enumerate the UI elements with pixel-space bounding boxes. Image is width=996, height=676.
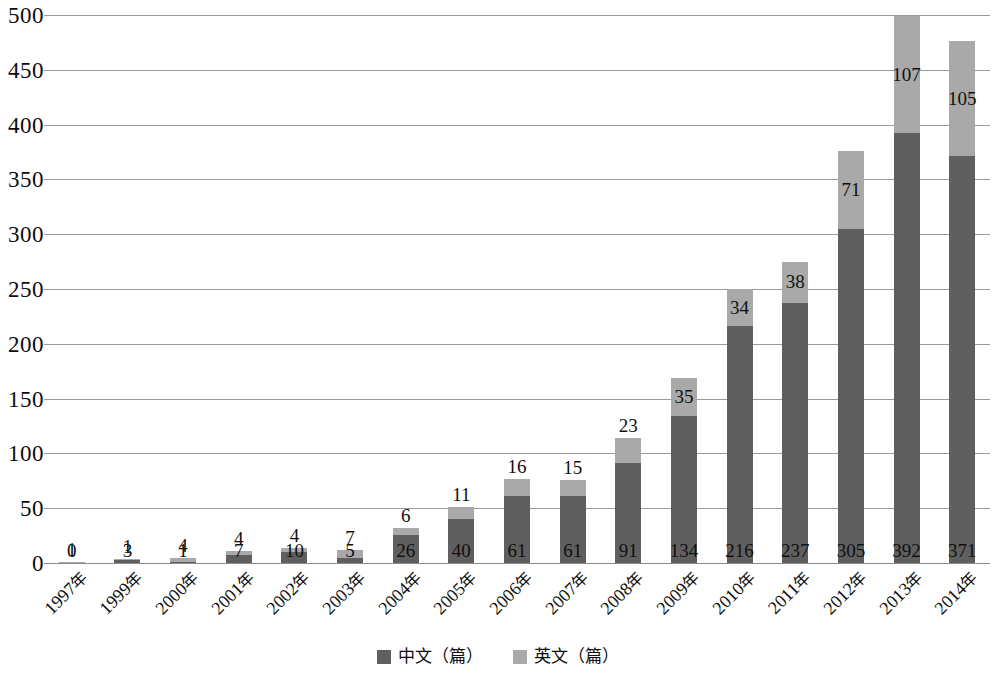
bar-group[interactable] bbox=[894, 16, 920, 563]
y-axis-tick-label: 250 bbox=[0, 278, 44, 301]
data-label-english: 15 bbox=[563, 458, 582, 477]
data-label-english: 11 bbox=[452, 485, 470, 504]
gridline-0 bbox=[44, 563, 990, 564]
data-label-chinese: 216 bbox=[725, 541, 754, 560]
data-label-chinese: 371 bbox=[948, 541, 977, 560]
y-axis-tick-label: 350 bbox=[0, 168, 44, 191]
legend-label: 中文（篇） bbox=[398, 648, 483, 665]
x-axis-tick-label: 2013年 bbox=[864, 568, 925, 629]
y-axis-tick-label: 300 bbox=[0, 223, 44, 246]
bar-group[interactable] bbox=[838, 151, 864, 563]
legend-swatch-icon bbox=[377, 650, 391, 664]
data-label-english: 6 bbox=[401, 506, 411, 525]
stacked-bar-chart: 0131147410457266401161166115912313435216… bbox=[0, 0, 996, 676]
y-axis-tick-label: 50 bbox=[0, 497, 44, 520]
data-label-english: 4 bbox=[234, 529, 244, 548]
data-label-english: 23 bbox=[619, 416, 638, 435]
y-axis-tick-label: 100 bbox=[0, 442, 44, 465]
data-label-english: 4 bbox=[290, 526, 300, 545]
data-label-chinese: 61 bbox=[508, 541, 527, 560]
x-axis-tick-label: 2014年 bbox=[920, 568, 981, 629]
x-axis-tick-label: 1997年 bbox=[30, 568, 91, 629]
data-label-english: 38 bbox=[786, 272, 805, 291]
x-axis-tick-label: 2007年 bbox=[531, 568, 592, 629]
data-label-english: 34 bbox=[730, 298, 749, 317]
data-label-chinese: 91 bbox=[619, 541, 638, 560]
bar-segment-chinese[interactable] bbox=[170, 562, 196, 563]
bar-segment-english[interactable] bbox=[560, 480, 586, 496]
x-axis-tick-label: 2001年 bbox=[197, 568, 258, 629]
data-label-chinese: 134 bbox=[670, 541, 699, 560]
data-label-english: 107 bbox=[892, 65, 921, 84]
x-axis-tick-label: 2011年 bbox=[753, 568, 814, 629]
data-label-chinese: 237 bbox=[781, 541, 810, 560]
data-label-english: 105 bbox=[948, 89, 977, 108]
y-axis-tick-label: 400 bbox=[0, 114, 44, 137]
data-label-chinese: 26 bbox=[396, 541, 415, 560]
gridline-400 bbox=[44, 125, 990, 126]
bar-segment-english[interactable] bbox=[615, 438, 641, 463]
y-axis-tick-label: 450 bbox=[0, 59, 44, 82]
bar-segment-english[interactable] bbox=[393, 528, 419, 535]
bar-group[interactable] bbox=[782, 262, 808, 563]
x-axis-tick-label: 2006年 bbox=[475, 568, 536, 629]
data-label-english: 35 bbox=[674, 387, 693, 406]
bar-segment-chinese[interactable] bbox=[727, 326, 753, 563]
legend-entry[interactable]: 英文（篇） bbox=[513, 648, 619, 665]
data-label-chinese: 305 bbox=[837, 541, 866, 560]
legend-swatch-icon bbox=[513, 650, 527, 664]
legend-entry[interactable]: 中文（篇） bbox=[377, 648, 483, 665]
y-axis-tick-label: 150 bbox=[0, 388, 44, 411]
gridline-450 bbox=[44, 70, 990, 71]
data-label-chinese: 40 bbox=[452, 541, 471, 560]
bar-segment-english[interactable] bbox=[448, 507, 474, 519]
y-axis-tick-label: 500 bbox=[0, 4, 44, 27]
x-axis-tick-label: 2010年 bbox=[697, 568, 758, 629]
data-label-english: 1 bbox=[123, 537, 133, 556]
bar-segment-english[interactable] bbox=[504, 479, 530, 497]
bar-segment-chinese[interactable] bbox=[838, 229, 864, 563]
chart-legend: 中文（篇）英文（篇） bbox=[0, 648, 996, 665]
x-axis-tick-label: 2012年 bbox=[809, 568, 870, 629]
x-axis-tick-label: 2004年 bbox=[364, 568, 425, 629]
bar-segment-chinese[interactable] bbox=[782, 303, 808, 563]
x-axis-tick-label: 1999年 bbox=[85, 568, 146, 629]
legend-label: 英文（篇） bbox=[534, 648, 619, 665]
y-axis-tick-label: 0 bbox=[0, 552, 44, 575]
x-axis-tick-label: 2000年 bbox=[141, 568, 202, 629]
data-label-english: 16 bbox=[508, 457, 527, 476]
bar-group[interactable] bbox=[949, 41, 975, 563]
y-axis-tick-label: 200 bbox=[0, 333, 44, 356]
bar-group[interactable] bbox=[727, 289, 753, 563]
data-label-english: 4 bbox=[178, 536, 188, 555]
data-label-chinese: 392 bbox=[892, 541, 921, 560]
bar-segment-english[interactable] bbox=[59, 562, 85, 563]
data-label-english: 71 bbox=[841, 180, 860, 199]
x-axis-tick-label: 2009年 bbox=[642, 568, 703, 629]
data-label-chinese: 61 bbox=[563, 541, 582, 560]
bar-group[interactable] bbox=[59, 562, 85, 563]
x-axis-tick-label: 2003年 bbox=[308, 568, 369, 629]
x-axis-tick-label: 2005年 bbox=[419, 568, 480, 629]
data-label-english: 7 bbox=[345, 528, 355, 547]
plot-area: 0131147410457266401161166115912313435216… bbox=[44, 15, 990, 563]
x-axis-tick-label: 2002年 bbox=[252, 568, 313, 629]
bar-segment-chinese[interactable] bbox=[949, 156, 975, 563]
x-axis-tick-label: 2008年 bbox=[586, 568, 647, 629]
data-label-english: 1 bbox=[67, 540, 77, 559]
gridline-500 bbox=[44, 15, 990, 16]
bar-segment-chinese[interactable] bbox=[894, 133, 920, 563]
